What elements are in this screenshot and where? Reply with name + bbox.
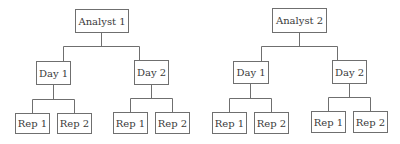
analyst-2-day-2-node: Day 2 bbox=[332, 60, 367, 84]
analyst-1-day-2-rep-2-node: Rep 2 bbox=[155, 112, 190, 134]
analyst-1-day-2-rep-1-node: Rep 1 bbox=[113, 112, 148, 134]
analyst-1-day-1-node: Day 1 bbox=[36, 61, 71, 85]
analyst-1-day-1-rep-2-node: Rep 2 bbox=[57, 113, 92, 134]
analyst-2-day-2-rep-1-node: Rep 1 bbox=[311, 111, 346, 133]
analyst-1-day-2-node: Day 2 bbox=[134, 60, 169, 85]
analyst-1-day-1-rep-1-node: Rep 1 bbox=[15, 113, 50, 134]
analyst-1-node: Analyst 1 bbox=[75, 9, 129, 33]
analyst-2-day-1-node: Day 1 bbox=[233, 61, 269, 84]
analyst-2-day-2-rep-2-node: Rep 2 bbox=[353, 111, 388, 133]
analyst-2-day-1-rep-1-node: Rep 1 bbox=[212, 112, 247, 134]
analyst-2-day-1-rep-2-node: Rep 2 bbox=[254, 112, 289, 134]
analyst-2-node: Analyst 2 bbox=[272, 8, 327, 33]
